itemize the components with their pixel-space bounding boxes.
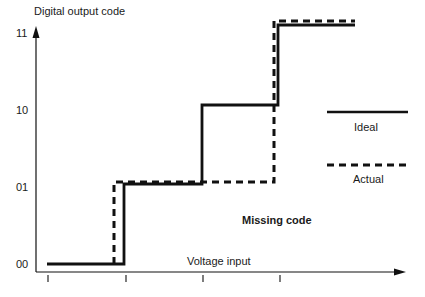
missing-code-annotation: Missing code xyxy=(242,214,312,226)
y-axis-title: Digital output code xyxy=(34,5,125,17)
actual-series-line xyxy=(114,21,355,264)
adc-transfer-diagram xyxy=(0,0,425,297)
y-tick-00: 00 xyxy=(16,258,28,270)
x-ticks xyxy=(48,275,280,282)
x-axis-arrow-icon xyxy=(394,269,406,276)
y-tick-11: 11 xyxy=(16,27,27,39)
y-tick-10: 10 xyxy=(16,104,28,116)
legend-actual-label: Actual xyxy=(353,173,384,185)
legend-ideal-label: Ideal xyxy=(354,121,378,133)
y-tick-01: 01 xyxy=(16,181,28,193)
y-axis-arrow-icon xyxy=(33,26,40,38)
ideal-series-line xyxy=(47,25,355,264)
x-axis-title: Voltage input xyxy=(187,255,251,267)
